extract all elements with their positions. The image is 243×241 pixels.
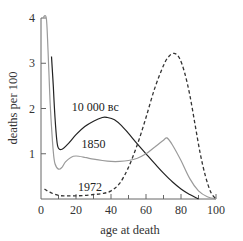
series-line-1972	[45, 53, 217, 199]
x-tick-label: 100	[207, 203, 225, 217]
series-line-1850	[43, 16, 216, 199]
series-group	[43, 16, 216, 199]
x-axis-label: age at death	[100, 223, 160, 237]
series-label-10000-bc: 10 000 вс	[72, 100, 119, 114]
series-label-1972: 1972	[78, 180, 102, 194]
series-label-1850: 1850	[82, 137, 106, 151]
y-tick-label: 3	[29, 56, 35, 70]
series-line-10000-bc	[52, 57, 199, 200]
x-tick-label: 60	[140, 203, 152, 217]
y-tick-label: 2	[29, 102, 35, 116]
x-tick-label: 40	[105, 203, 117, 217]
x-tick-label: 0	[38, 203, 44, 217]
labels-group: 10 000 вс18501972	[72, 100, 119, 194]
axes: 1234020406080100	[29, 11, 225, 217]
y-tick-label: 4	[29, 11, 35, 25]
y-axis-label: deaths per 100	[6, 72, 20, 145]
y-tick-label: 1	[29, 147, 35, 161]
x-tick-label: 20	[70, 203, 82, 217]
chart: 1234020406080100 10 000 вс18501972 age a…	[0, 0, 243, 241]
x-tick-label: 80	[175, 203, 187, 217]
